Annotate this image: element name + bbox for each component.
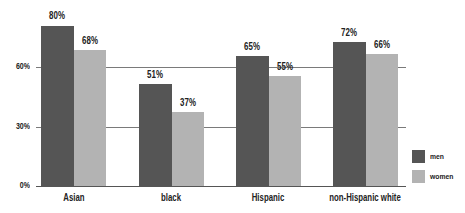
bar-black-women: [172, 112, 204, 186]
value-label-asian-women: 68%: [76, 34, 105, 46]
bar-black-men: [139, 84, 172, 186]
bar-nonhispanic-white-women: [366, 54, 398, 186]
value-label-black-men: 51%: [141, 68, 170, 80]
x-label-asian: Asian: [19, 192, 128, 203]
legend-swatch-women: [412, 170, 425, 183]
bar-asian-men: [41, 26, 74, 186]
bar-asian-women: [74, 50, 106, 186]
bar-hispanic-women: [269, 76, 301, 186]
bar-hispanic-men: [236, 56, 269, 186]
value-label-hispanic-women: 55%: [271, 60, 300, 72]
value-label-black-women: 37%: [174, 96, 203, 108]
legend-label-men: men: [430, 152, 444, 161]
y-tick-0: 0%: [7, 180, 30, 190]
x-axis-baseline: [36, 186, 406, 187]
legend-swatch-men: [412, 150, 425, 163]
value-label-asian-men: 80%: [43, 9, 72, 21]
y-tick-30: 30%: [7, 121, 30, 131]
value-label-hispanic-men: 65%: [238, 40, 267, 52]
bar-chart: 60% 30% 0% 80% 68% Asian 51% 37% black 6…: [0, 0, 465, 213]
value-label-nonhispanic-white-women: 66%: [368, 38, 397, 50]
bar-nonhispanic-white-men: [333, 42, 366, 186]
x-label-hispanic: Hispanic: [213, 192, 322, 203]
x-label-black: black: [116, 192, 225, 203]
y-tick-60: 60%: [7, 61, 30, 71]
value-label-nonhispanic-white-men: 72%: [335, 26, 364, 38]
x-label-nonhispanic-white: non-Hispanic white: [310, 192, 419, 203]
legend-label-women: women: [430, 172, 453, 181]
